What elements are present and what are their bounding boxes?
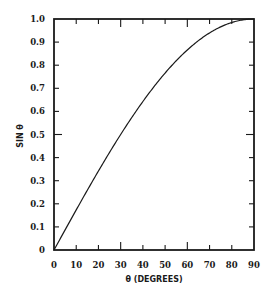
x-tick-label: 10 [70, 260, 82, 270]
y-tick-label: 0.7 [30, 83, 45, 93]
y-tick-label: 1.0 [30, 14, 45, 24]
x-tick-label: 30 [115, 260, 127, 270]
y-tick-label: 0 [39, 245, 45, 255]
x-tick-label: 60 [181, 260, 193, 270]
x-tick-label: 20 [93, 260, 105, 270]
x-axis-title: θ (DEGREES) [125, 275, 182, 284]
x-axis-ticks: 0102030405060708090 [51, 19, 260, 270]
x-tick-label: 40 [137, 260, 149, 270]
y-tick-label: 0.5 [30, 130, 45, 140]
y-axis-ticks: 00.10.20.30.40.50.60.70.80.91.0 [30, 14, 254, 255]
x-tick-label: 70 [204, 260, 216, 270]
x-tick-label: 50 [159, 260, 171, 270]
y-axis-title: SIN θ [16, 124, 25, 148]
y-tick-label: 0.2 [30, 199, 45, 209]
x-tick-label: 0 [51, 260, 57, 270]
y-tick-label: 0.4 [30, 153, 45, 163]
x-tick-label: 90 [248, 260, 260, 270]
y-tick-label: 0.6 [30, 106, 45, 116]
y-tick-label: 0.8 [30, 60, 45, 70]
x-tick-label: 80 [226, 260, 238, 270]
plot-frame [54, 19, 254, 250]
sine-curve [54, 19, 254, 250]
y-tick-label: 0.3 [30, 176, 45, 186]
y-tick-label: 0.1 [30, 222, 45, 232]
y-tick-label: 0.9 [30, 37, 45, 47]
plot-area [54, 19, 254, 250]
sine-chart: 0102030405060708090 00.10.20.30.40.50.60… [0, 0, 268, 292]
